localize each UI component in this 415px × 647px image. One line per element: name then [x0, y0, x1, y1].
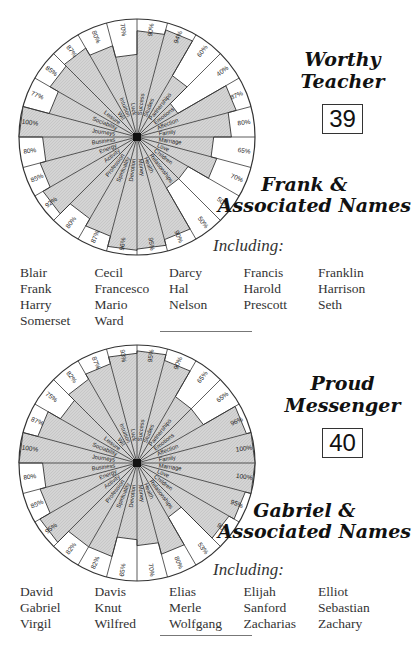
radar-chart-proud-messenger: Success95%Studies90%Partnerships65%Emoti…	[0, 326, 280, 591]
name-item: Hal	[169, 281, 244, 297]
names-group-title-line2: Associated Names	[218, 521, 411, 542]
profile-title-line1: Proud	[270, 372, 415, 394]
names-list: DavidDavisEliasElijahElliotGabrielKnutMe…	[20, 584, 410, 632]
name-item: Cecil	[95, 265, 170, 281]
name-item: Frank	[20, 281, 95, 297]
name-item: Sebastian	[318, 600, 393, 616]
name-item: Merle	[169, 600, 244, 616]
profile-section-39: Success90%Studies94%Partnerships60%Emoti…	[0, 0, 415, 330]
name-item: Gabriel	[20, 600, 95, 616]
radar-center-hub	[133, 459, 141, 467]
name-item: Harry	[20, 297, 95, 313]
name-item: Franklin	[318, 265, 393, 281]
names-group-title-line1: Frank &	[218, 174, 411, 195]
name-item: Elijah	[244, 584, 319, 600]
name-item: Prescott	[244, 297, 319, 313]
name-item: Elliot	[318, 584, 393, 600]
name-item: Sanford	[244, 600, 319, 616]
profile-section-40: Success95%Studies90%Partnerships65%Emoti…	[0, 326, 415, 647]
profile-number-badge: 40	[322, 428, 363, 458]
profile-title-block: Proud Messenger 40	[270, 372, 415, 458]
name-item: Zacharias	[244, 616, 319, 632]
name-item: Elias	[169, 584, 244, 600]
divider-rule	[160, 635, 252, 636]
names-group-title-line1: Gabriel &	[218, 500, 411, 521]
name-item: Virgil	[20, 616, 95, 632]
radar-center-hub	[133, 133, 141, 141]
name-item: Harold	[244, 281, 319, 297]
name-item: Darcy	[169, 265, 244, 281]
name-item: Zachary	[318, 616, 393, 632]
profile-title-block: Worthy Teacher 39	[270, 48, 415, 134]
including-label: Including:	[213, 236, 284, 256]
name-item: Francesco	[95, 281, 170, 297]
including-label: Including:	[213, 560, 284, 580]
name-item: Knut	[95, 600, 170, 616]
profile-number-badge: 39	[322, 104, 363, 134]
name-item: Davis	[95, 584, 170, 600]
profile-title-line2: Teacher	[270, 70, 415, 92]
name-item: Seth	[318, 297, 393, 313]
names-group-title: Gabriel & Associated Names	[218, 500, 411, 542]
name-item: Mario	[95, 297, 170, 313]
name-item: Wolfgang	[169, 616, 244, 632]
names-group-title: Frank & Associated Names	[218, 174, 411, 216]
names-group-title-line2: Associated Names	[218, 195, 411, 216]
name-item: Harrison	[318, 281, 393, 297]
profile-title-line2: Messenger	[270, 394, 415, 416]
radar-chart-worthy-teacher: Success90%Studies94%Partnerships60%Emoti…	[0, 0, 280, 265]
name-item: Wilfred	[95, 616, 170, 632]
name-item: Francis	[244, 265, 319, 281]
name-item: David	[20, 584, 95, 600]
profile-title-line1: Worthy	[270, 48, 415, 70]
names-list: BlairCecilDarcyFrancisFranklinFrankFranc…	[20, 265, 410, 329]
name-item: Nelson	[169, 297, 244, 313]
name-item: Blair	[20, 265, 95, 281]
